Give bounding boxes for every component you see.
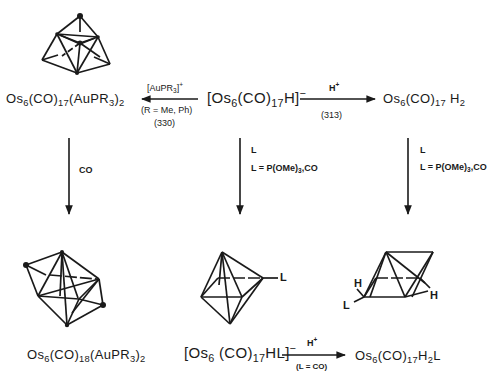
reagent-l-center: L [251,146,257,155]
compound-bottom-right: Os6(CO)17H2L [355,349,441,362]
ligand-label-right: L [343,300,350,311]
reference-330: (330) [154,119,175,128]
hydride-label-1: H [354,278,362,289]
cluster-bottom-left [26,252,103,325]
compound-top-right: Os6(CO)17 H2 [383,92,465,105]
reagent-l-right: L [420,146,426,155]
reagent-h-plus-bottom: H+ [307,339,317,348]
condition-l-equals-co: (L = CO) [296,363,327,371]
reference-313: (313) [321,111,342,120]
reagent-aupr3: [AuPR3]+ [147,84,183,93]
reagent-h-plus-top: H+ [329,84,339,93]
condition-l-center: L = P(OMe)3,CO [251,164,318,173]
condition-r-groups: (R = Me, Ph) [141,106,192,115]
gold-atom-icon [77,13,83,19]
compound-bottom-center: [Os6 (CO)17HL]− [184,345,296,360]
gold-atom-icon [78,41,83,46]
compound-top-left: Os6(CO)17(AuPR3)2 [6,92,125,105]
gold-atom-icon [100,302,106,308]
reaction-scheme-artwork [0,0,503,382]
cluster-top-left [42,16,110,73]
hydride-label-2: H [430,290,438,301]
gold-atom-icon [23,262,29,268]
compound-bottom-left: Os6(CO)18(AuPR3)2 [27,348,146,361]
cluster-bottom-center [201,252,278,324]
compound-top-center: [Os6(CO)17H]− [207,90,306,105]
condition-l-right: L = P(OMe)3,CO [420,163,487,172]
cluster-bottom-right [354,252,433,302]
ligand-label-center: L [280,272,287,283]
reagent-co-left: CO [79,166,93,175]
